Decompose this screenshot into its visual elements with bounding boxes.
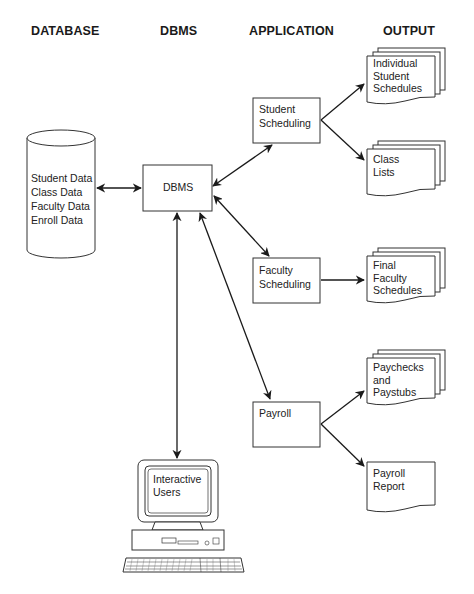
arrow-dbms-student-scheduling <box>213 145 272 186</box>
database-contents: Student Data Class Data Faculty Data Enr… <box>31 171 92 227</box>
label-line: and <box>373 374 424 387</box>
label-line: Payroll <box>373 467 405 480</box>
label-line: Lists <box>373 166 399 179</box>
label-line: Users <box>153 486 201 499</box>
paychecks-and-paystubs-label: Paychecks and Paystubs <box>373 361 424 399</box>
label-line: Schedules <box>373 284 422 297</box>
payroll-label: Payroll <box>259 406 291 420</box>
label-line: Final <box>373 259 422 272</box>
label-line: Individual <box>373 57 422 70</box>
final-faculty-schedules-label: Final Faculty Schedules <box>373 259 422 297</box>
database-item: Student Data <box>31 171 92 185</box>
interactive-users-label: Interactive Users <box>153 473 201 499</box>
payroll-report-label: Payroll Report <box>373 467 405 492</box>
label-line: Student <box>373 70 422 83</box>
label-line: Interactive <box>153 473 201 486</box>
database-item: Enroll Data <box>31 213 92 227</box>
label-line: Paychecks <box>373 361 424 374</box>
dbms-label: DBMS <box>163 180 193 194</box>
arrow-payroll-report <box>321 424 364 466</box>
label-line: Student <box>259 102 311 116</box>
class-lists-label: Class Lists <box>373 153 399 178</box>
label-line: Scheduling <box>259 277 311 291</box>
label-line: Faculty <box>259 263 311 277</box>
label-line: Class <box>373 153 399 166</box>
arrow-dbms-payroll <box>200 213 270 399</box>
arrow-payroll-paychecks <box>321 391 364 424</box>
label-line: Paystubs <box>373 386 424 399</box>
label-line: Scheduling <box>259 116 311 130</box>
label-line: Payroll <box>259 406 291 420</box>
individual-student-schedules-label: Individual Student Schedules <box>373 57 422 95</box>
arrow-student-sched-class-lists <box>321 120 364 160</box>
label-line: Faculty <box>373 272 422 285</box>
label-line: Report <box>373 480 405 493</box>
database-item: Faculty Data <box>31 199 92 213</box>
arrow-dbms-faculty-scheduling <box>214 196 269 256</box>
arrow-student-sched-individual <box>321 84 364 120</box>
database-item: Class Data <box>31 185 92 199</box>
label-line: Schedules <box>373 82 422 95</box>
student-scheduling-label: Student Scheduling <box>259 102 311 130</box>
faculty-scheduling-label: Faculty Scheduling <box>259 263 311 291</box>
